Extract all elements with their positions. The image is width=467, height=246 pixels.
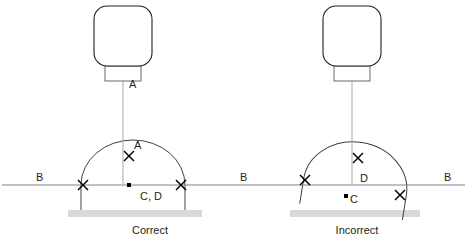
correct-center-dot <box>127 183 131 187</box>
incorrect-device-body <box>323 6 381 66</box>
label-b-left: B <box>36 171 43 183</box>
incorrect-label-c: C <box>350 193 358 205</box>
correct-x-mark-apex <box>124 151 134 161</box>
correct-label-cd: C, D <box>140 190 162 202</box>
label-b-right: B <box>444 171 451 183</box>
incorrect-x-mark-right-intersection <box>395 190 405 200</box>
correct-caption: Correct <box>132 224 168 236</box>
incorrect-caption: Incorrect <box>336 224 379 236</box>
incorrect-ground-bar <box>290 210 420 217</box>
incorrect-arc <box>300 134 414 219</box>
correct-arc <box>81 140 185 210</box>
incorrect-device-neck <box>334 66 370 81</box>
diagram-root: AAC, DDCBBBCorrectIncorrect <box>0 0 467 246</box>
correct-device-body <box>94 6 152 66</box>
incorrect-x-mark-apex <box>353 153 363 163</box>
label-b-middle: B <box>240 171 247 183</box>
correct-label-a-apex: A <box>134 139 142 151</box>
correct-label-a-upper: A <box>129 78 137 90</box>
incorrect-label-d: D <box>360 172 368 184</box>
alignment-diagram: AAC, DDCBBBCorrectIncorrect <box>0 0 467 246</box>
correct-ground-bar <box>68 210 202 217</box>
incorrect-x-mark-left-intersection <box>300 175 310 185</box>
incorrect-center-dot <box>344 194 348 198</box>
